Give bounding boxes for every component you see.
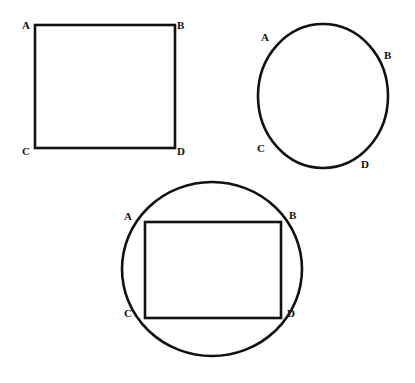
figure2-label-d: D (361, 159, 369, 170)
figure1-label-b: B (177, 20, 185, 31)
rectangle-shape (35, 25, 175, 148)
geometry-drawing (0, 0, 415, 383)
figure1-label-d: D (177, 146, 185, 157)
figure1-label-a: A (22, 20, 30, 31)
figure2-label-c: C (257, 143, 265, 154)
figure3-label-b: B (289, 210, 297, 221)
inscribed-circle-shape (122, 182, 302, 356)
figure2-label-a: A (261, 32, 269, 43)
inscribed-rectangle-shape (145, 222, 281, 318)
figure3-label-d: D (287, 308, 295, 319)
figure1-label-c: C (22, 146, 30, 157)
figure3-label-a: A (124, 211, 132, 222)
figure-rectangle (35, 25, 175, 148)
figure-inscribed (122, 182, 302, 356)
figure-circle (258, 24, 388, 168)
figure3-label-c: C (124, 308, 132, 319)
figure2-label-b: B (384, 50, 392, 61)
figure-canvas: A B C D A B C D A B C D (0, 0, 415, 383)
circle-shape (258, 24, 388, 168)
